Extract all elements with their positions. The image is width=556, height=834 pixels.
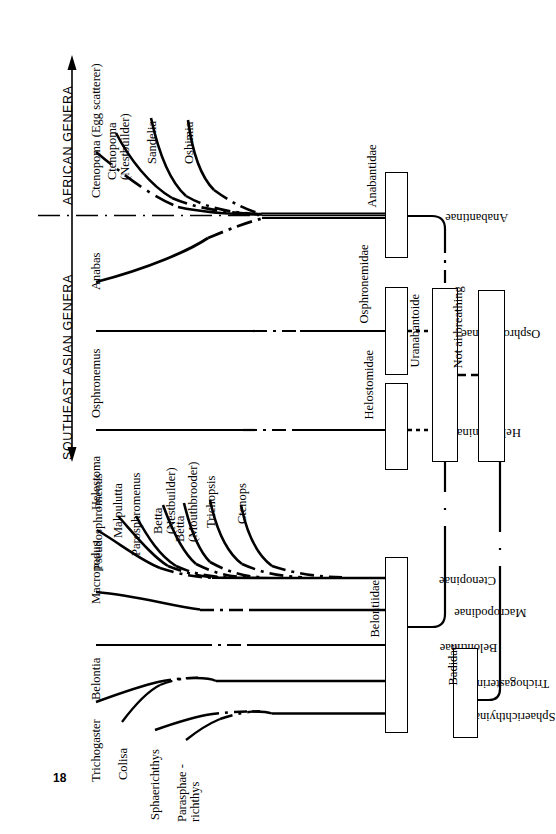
genus-label-sphaerichthys: Sphaerichthys	[149, 749, 162, 820]
branch-anabas-dashed	[208, 219, 262, 239]
group-box-label-not-airbreathing: Not airbreathing	[450, 286, 465, 368]
family-box-label-anabantidae: Anabantidae	[365, 144, 380, 207]
subfamily-label-trichogasterinae: Trichogasterinae	[466, 678, 550, 691]
page-number: 18	[53, 772, 66, 784]
group-box-label-uranabantoide: Uranabantoide	[408, 294, 423, 368]
family-box-belontiidae[interactable]: Belontiidae	[385, 557, 408, 733]
axis-label-african: AFRICAN GENERA	[62, 85, 75, 205]
family-box-label-osphronemidae: Osphronemidae	[357, 244, 372, 323]
genus-label-anabas: Anabas	[90, 253, 103, 291]
genus-label-colisa: Colisa	[117, 748, 130, 780]
genus-label-trichopsis: Trichopsis	[205, 476, 218, 528]
genus-label-ctenops: Ctenops	[236, 483, 249, 524]
branch-anabas-solid	[96, 238, 208, 282]
axis-african-arrowhead	[68, 55, 77, 70]
genus-label-malpulutta: Malpulutta	[112, 483, 125, 538]
genus-label-trichogaster: Trichogaster	[90, 719, 103, 782]
branch-parasphaerichthys-solid	[186, 719, 220, 740]
genus-label-oshimia: Oshimia	[183, 122, 196, 164]
genus-label-osphronemus: Osphronemus	[90, 349, 103, 418]
family-box-badidae[interactable]: Badidae	[453, 648, 478, 738]
family-box-anabantidae[interactable]: Anabantidae	[385, 172, 408, 258]
branch-trichogaster-join	[196, 678, 216, 681]
branch-sphaerichthys-solid	[155, 715, 206, 730]
axis-label-southeast-asian: SOUTHEAST ASIAN GENERA	[62, 274, 75, 460]
connector-anabantidae-elbow	[408, 216, 445, 240]
genus-label-ctenopoma-egg: Ctenopoma (Egg scatterer)	[90, 63, 103, 198]
genus-label-macropodus: Macropodus	[90, 542, 103, 605]
family-box-label-helostomidae: Helostomidae	[362, 350, 377, 419]
family-box-label-badidae: Badidae	[445, 645, 460, 686]
genus-label-belontia: Belontia	[90, 658, 103, 700]
family-box-helostomidae[interactable]: Helostomidae	[385, 383, 408, 470]
subfamily-label-macropodinae: Macropodinae	[454, 607, 526, 620]
branch-macropodus-solid	[96, 592, 200, 610]
subfamily-label-anabantinae: Anabantinae	[445, 212, 508, 225]
family-box-label-belontiidae: Belontiidae	[368, 580, 383, 638]
genus-label-parosphromenus: Parosphromenus	[130, 473, 143, 556]
genus-label-parasphaerichthys: Parasphae -richthys	[176, 764, 202, 822]
genus-label-ctenopoma-nest: Ctenopoma(Nestbuilder)	[106, 113, 132, 180]
genus-label-sandelia: Sandelia	[146, 121, 159, 164]
subfamily-label-sphaerichthyinae: Sphaerichthyinae	[469, 711, 556, 724]
branch-sphaerichthys-dashed	[206, 712, 252, 716]
subfamily-label-ctenopinae: Ctenopinae	[439, 575, 496, 588]
genus-label-betta-mouth: Betta(Mouthbrooder)	[174, 461, 200, 542]
group-box-not-airbreathing[interactable]: Not airbreathing	[478, 290, 505, 462]
family-box-osphronemidae[interactable]: Osphronemidae	[385, 287, 408, 375]
connector-belontiidae-elbow	[408, 600, 445, 627]
